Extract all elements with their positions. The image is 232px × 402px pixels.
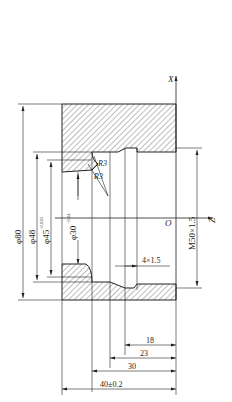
x-axis-label: X: [167, 74, 174, 84]
thread-label: M50×1.5: [187, 216, 197, 250]
dia-30-label: φ30: [68, 225, 78, 240]
groove-label: 4×1.5: [142, 256, 161, 265]
dia-45-tol-upper: +0.026: [39, 217, 44, 230]
dia-80-label: φ80: [13, 229, 23, 244]
length-23-label: 23: [140, 349, 148, 358]
dia-48-label: φ48: [27, 229, 37, 244]
part-drawing: X O Z φ80 φ48 φ45 +0.026 φ30 +0.04 M50×1…: [0, 0, 232, 402]
dia-45-label: φ45: [41, 229, 51, 244]
length-40-label: 40±0.2: [100, 380, 122, 389]
radius-label-1: R3: [97, 159, 107, 168]
length-18-label: 18: [146, 336, 154, 345]
technical-drawing: X O Z φ80 φ48 φ45 +0.026 φ30 +0.04 M50×1…: [0, 0, 232, 402]
origin-label: O: [165, 218, 172, 228]
radius-label-2: R3: [93, 172, 103, 181]
length-30-label: 30: [128, 362, 136, 371]
upper-section: [62, 104, 176, 172]
dia-30-tol-upper: +0.04: [66, 213, 71, 224]
